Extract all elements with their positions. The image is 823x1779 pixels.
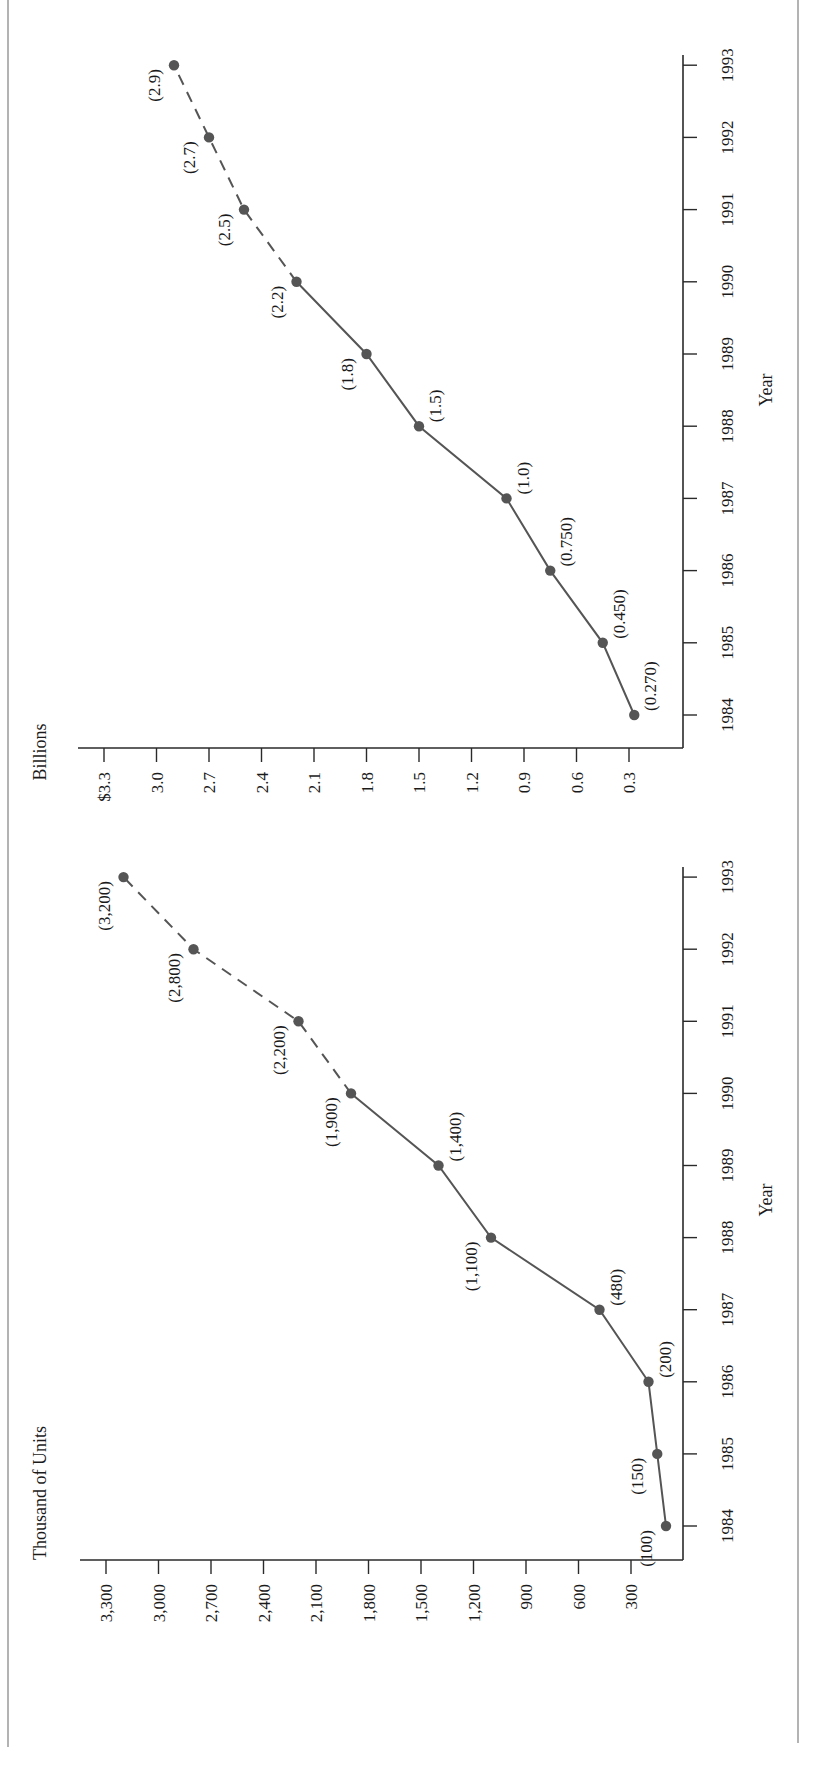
billions-x-axis-title: Year xyxy=(756,373,776,406)
year-tick-label: 1990 xyxy=(718,1076,737,1110)
data-label: (1.8) xyxy=(338,358,357,391)
year-tick-label: 1993 xyxy=(718,860,737,894)
data-label: (1,100) xyxy=(462,1242,481,1292)
data-point xyxy=(291,277,301,287)
data-point xyxy=(188,944,198,954)
data-label: (2,200) xyxy=(270,1025,289,1075)
year-tick-label: 1991 xyxy=(718,193,737,227)
data-point xyxy=(629,710,639,720)
value-tick-label: 2.7 xyxy=(200,772,219,794)
value-tick-label: 1.5 xyxy=(410,772,429,793)
data-point xyxy=(594,1305,604,1315)
data-label: (100) xyxy=(637,1530,656,1567)
value-tick-label: 0.6 xyxy=(568,772,587,793)
year-tick-label: 1985 xyxy=(718,1437,737,1471)
billions-chart: $3.33.02.72.42.11.81.51.20.90.60.3198419… xyxy=(30,48,776,802)
units-series xyxy=(118,872,671,1531)
year-tick-label: 1984 xyxy=(718,1509,737,1544)
data-point xyxy=(118,872,128,882)
actual-line xyxy=(297,282,635,715)
value-tick-label: 0.3 xyxy=(620,772,639,793)
data-point xyxy=(486,1232,496,1242)
value-tick-label: 1.8 xyxy=(358,772,377,793)
value-tick-label: 3,300 xyxy=(97,1584,116,1622)
data-point xyxy=(652,1449,662,1459)
value-tick-label: 2,100 xyxy=(307,1584,326,1622)
data-point xyxy=(661,1521,671,1531)
units-labels: (100)(150)(200)(480)(1,100)(1,400)(1,900… xyxy=(95,881,675,1567)
year-tick-label: 1989 xyxy=(718,1149,737,1183)
billions-series xyxy=(169,60,640,720)
data-label: (2.5) xyxy=(215,214,234,247)
value-tick-label: 2,700 xyxy=(202,1584,221,1622)
data-point xyxy=(598,638,608,648)
data-point xyxy=(414,421,424,431)
data-point xyxy=(239,204,249,214)
data-point xyxy=(545,565,555,575)
data-point xyxy=(501,493,511,503)
year-tick-label: 1989 xyxy=(718,337,737,371)
data-label: (1,900) xyxy=(322,1097,341,1147)
projected-line xyxy=(124,877,352,1093)
value-tick-label: 3.0 xyxy=(148,772,167,793)
billions-y-axis-title: Billions xyxy=(30,723,50,780)
units-x-axis-title: Year xyxy=(756,1183,776,1216)
data-label: (1.0) xyxy=(514,462,533,495)
value-tick-label: 1,500 xyxy=(412,1584,431,1622)
data-point xyxy=(433,1160,443,1170)
data-label: (1.5) xyxy=(426,390,445,423)
data-point xyxy=(346,1088,356,1098)
units-chart: 3,3003,0002,7002,4002,1001,8001,5001,200… xyxy=(30,860,776,1622)
year-tick-label: 1990 xyxy=(718,265,737,299)
value-tick-label: 300 xyxy=(622,1584,641,1610)
data-label: (0.450) xyxy=(610,589,629,639)
data-label: (2,800) xyxy=(165,953,184,1003)
data-point xyxy=(293,1016,303,1026)
value-tick-label: 2.4 xyxy=(253,772,272,794)
value-tick-label: 900 xyxy=(517,1584,536,1610)
year-tick-label: 1987 xyxy=(718,481,737,516)
data-label: (480) xyxy=(607,1269,626,1306)
year-tick-label: 1992 xyxy=(718,120,737,154)
year-tick-label: 1988 xyxy=(718,1221,737,1255)
data-label: (150) xyxy=(628,1458,647,1495)
year-tick-label: 1988 xyxy=(718,409,737,443)
data-point xyxy=(361,349,371,359)
data-label: (2.2) xyxy=(268,286,287,319)
value-tick-label: 2,400 xyxy=(255,1584,274,1622)
data-label: (2.9) xyxy=(145,69,164,102)
data-label: (1,400) xyxy=(446,1112,465,1162)
data-point xyxy=(643,1377,653,1387)
year-tick-label: 1993 xyxy=(718,48,737,82)
year-tick-label: 1985 xyxy=(718,626,737,660)
data-label: (0.750) xyxy=(557,517,576,567)
data-label: (2.7) xyxy=(180,141,199,174)
data-point xyxy=(204,132,214,142)
units-y-axis-title: Thousand of Units xyxy=(30,1426,50,1560)
value-tick-label: 1.2 xyxy=(463,772,482,793)
value-tick-label: 0.9 xyxy=(515,772,534,793)
actual-line xyxy=(351,1093,666,1526)
data-label: (200) xyxy=(656,1341,675,1378)
figure-canvas: $3.33.02.72.42.11.81.51.20.90.60.3198419… xyxy=(0,0,823,1779)
year-tick-label: 1986 xyxy=(718,554,737,588)
year-tick-label: 1991 xyxy=(718,1004,737,1038)
year-tick-label: 1984 xyxy=(718,698,737,733)
year-tick-label: 1986 xyxy=(718,1365,737,1399)
value-tick-label: 3,000 xyxy=(150,1584,169,1622)
data-point xyxy=(169,60,179,70)
data-label: (3,200) xyxy=(95,881,114,931)
year-tick-label: 1992 xyxy=(718,932,737,966)
data-label: (0.270) xyxy=(641,661,660,711)
value-tick-label: 600 xyxy=(570,1584,589,1610)
billions-axes: $3.33.02.72.42.11.81.51.20.90.60.3198419… xyxy=(78,48,737,802)
value-tick-label: $3.3 xyxy=(95,772,114,802)
rotated-page: $3.33.02.72.42.11.81.51.20.90.60.3198419… xyxy=(0,0,823,1779)
value-tick-label: 1,800 xyxy=(360,1584,379,1622)
value-tick-label: 2.1 xyxy=(305,772,324,793)
year-tick-label: 1987 xyxy=(718,1292,737,1327)
value-tick-label: 1,200 xyxy=(465,1584,484,1622)
